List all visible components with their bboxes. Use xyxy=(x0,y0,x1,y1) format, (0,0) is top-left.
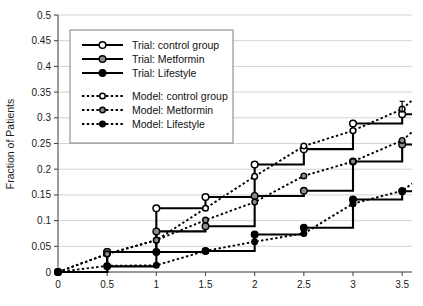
data-point-marker xyxy=(202,194,209,201)
data-point-marker xyxy=(251,231,258,238)
data-point-marker xyxy=(202,223,209,230)
y-tick-label: 0.25 xyxy=(32,138,52,149)
y-tick-label: 0 xyxy=(45,267,51,278)
chart-legend: Trial: control groupTrial: MetforminTria… xyxy=(70,30,233,143)
y-tick-label: 0.05 xyxy=(32,241,52,252)
y-tick-label: 0.2 xyxy=(37,164,51,175)
data-point-marker xyxy=(55,269,61,275)
data-point-marker xyxy=(301,187,308,194)
x-axis-ticks: 00.511.522.533.5 xyxy=(55,272,409,290)
x-tick-label: 1 xyxy=(154,279,160,290)
x-tick-label: 0.5 xyxy=(100,279,114,290)
survival-step-chart: 00.050.10.150.20.250.30.350.40.450.5 00.… xyxy=(0,0,423,306)
y-tick-label: 0.5 xyxy=(37,10,51,21)
data-point-marker xyxy=(203,248,209,254)
data-point-marker xyxy=(104,263,110,269)
data-point-marker xyxy=(301,143,307,149)
x-tick-label: 3 xyxy=(350,279,356,290)
series-trial-lifestyle xyxy=(55,188,412,275)
x-tick-label: 1.5 xyxy=(199,279,213,290)
y-axis-title: Fraction of Patients xyxy=(4,99,16,189)
data-point-marker xyxy=(399,138,405,144)
data-point-marker xyxy=(153,228,160,235)
data-point-marker xyxy=(252,199,258,205)
legend-label: Trial: control group xyxy=(132,39,219,51)
data-point-marker xyxy=(154,237,160,243)
legend-marker xyxy=(100,107,106,113)
x-tick-label: 2.5 xyxy=(297,279,311,290)
data-point-marker xyxy=(399,188,405,194)
data-point-marker xyxy=(203,217,209,223)
legend-label: Model: control group xyxy=(132,90,228,102)
x-tick-label: 2 xyxy=(252,279,258,290)
data-point-marker xyxy=(350,128,356,134)
y-tick-label: 0.45 xyxy=(32,35,52,46)
data-point-marker xyxy=(301,173,307,179)
series-model-metformin xyxy=(55,132,412,275)
series-path xyxy=(58,145,412,272)
data-point-marker xyxy=(153,205,160,212)
data-point-marker xyxy=(251,161,258,168)
data-point-marker xyxy=(203,205,209,211)
legend-marker xyxy=(100,121,106,127)
y-axis-ticks: 00.050.10.150.20.250.30.350.40.450.5 xyxy=(32,10,58,278)
y-tick-label: 0.15 xyxy=(32,189,52,200)
y-tick-label: 0.1 xyxy=(37,215,51,226)
chart-container: 00.050.10.150.20.250.30.350.40.450.5 00.… xyxy=(0,0,423,306)
data-point-marker xyxy=(301,231,307,237)
y-tick-label: 0.35 xyxy=(32,87,52,98)
legend-label: Model: Lifestyle xyxy=(132,118,205,130)
legend-label: Trial: Lifestyle xyxy=(132,67,197,79)
data-point-marker xyxy=(350,120,357,127)
y-tick-label: 0.3 xyxy=(37,112,51,123)
data-point-marker xyxy=(153,249,160,256)
legend-marker xyxy=(99,56,106,63)
data-point-marker xyxy=(350,201,356,207)
data-point-marker xyxy=(350,159,356,165)
y-tick-label: 0.4 xyxy=(37,61,51,72)
legend-marker xyxy=(99,42,106,49)
legend-label: Trial: Metformin xyxy=(132,53,205,65)
legend-marker xyxy=(99,70,106,77)
data-point-marker xyxy=(104,251,110,257)
data-point-marker xyxy=(251,193,258,200)
data-point-marker xyxy=(154,263,160,269)
x-tick-label: 0 xyxy=(55,279,61,290)
series-path xyxy=(58,191,412,272)
data-point-marker xyxy=(252,239,258,245)
x-tick-label: 3.5 xyxy=(395,279,409,290)
data-point-marker xyxy=(252,174,258,180)
legend-marker xyxy=(100,93,106,99)
legend-label: Model: Metformin xyxy=(132,104,213,116)
